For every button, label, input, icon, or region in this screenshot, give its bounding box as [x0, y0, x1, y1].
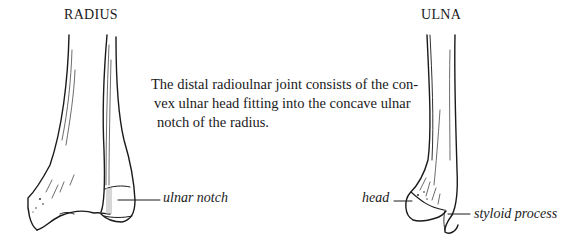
- ulna-title: ULNA: [421, 7, 461, 23]
- radius-drawing: [28, 35, 160, 230]
- ulna-drawing: [394, 35, 470, 233]
- head-label: head: [362, 190, 389, 206]
- radius-title: RADIUS: [64, 7, 118, 23]
- caption: The distal radioulnar joint consists of …: [151, 75, 391, 132]
- ulnar-notch-label: ulnar notch: [163, 190, 228, 206]
- styloid-process-label: styloid process: [474, 206, 557, 222]
- caption-line: The distal radioulnar joint consists of …: [151, 75, 391, 94]
- caption-line: vex ulnar head fitting into the concave …: [151, 94, 391, 113]
- caption-line: notch of the radius.: [151, 113, 391, 132]
